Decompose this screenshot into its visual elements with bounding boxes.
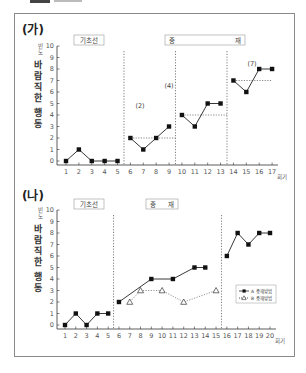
y-tick-label: 3 (50, 123, 54, 131)
data-point-square (149, 277, 153, 281)
data-point-square (117, 300, 121, 304)
x-tick-label: 18 (244, 332, 252, 340)
data-point-square (268, 231, 272, 235)
criterion-label: (4) (164, 82, 173, 90)
phase-label: 재 (235, 37, 241, 45)
svg-text:한: 한 (34, 92, 43, 103)
y-tick-label: 0 (50, 157, 54, 165)
x-tick-label: 13 (190, 332, 198, 340)
y-tick-label: 5 (50, 100, 54, 108)
phase-header-box (165, 35, 245, 45)
svg-text:바: 바 (34, 223, 43, 234)
x-tick-label: 13 (216, 168, 224, 176)
svg-text:행: 행 (34, 271, 42, 282)
svg-text:직: 직 (34, 82, 42, 92)
x-tick-label: 10 (158, 332, 166, 340)
data-point-square (171, 277, 175, 281)
legend-label: A 중재방법 (251, 288, 272, 295)
y-unit-label: 빈도 (38, 42, 43, 55)
y-unit-label: 빈도 (38, 206, 43, 219)
y-tick-label: 2 (50, 298, 54, 306)
x-axis-label: 회기 (277, 173, 287, 181)
y-axis-label: 바람직한행동 (34, 59, 43, 129)
data-point-square (246, 242, 250, 246)
data-point-square (128, 136, 132, 140)
x-tick-label: 14 (201, 332, 209, 340)
svg-text:바: 바 (34, 59, 43, 70)
legend-label: B 중재방법 (251, 295, 272, 302)
data-point-triangle (213, 288, 219, 293)
data-point-triangle (159, 288, 165, 293)
x-tick-label: 12 (180, 332, 188, 340)
x-tick-label: 2 (74, 332, 78, 340)
x-tick-label: 16 (223, 332, 231, 340)
data-point-square (90, 159, 94, 163)
y-tick-label: 4 (50, 111, 54, 119)
panel-label: (나) (22, 188, 44, 203)
x-tick-label: 8 (138, 332, 142, 340)
y-tick-label: 10 (46, 206, 54, 214)
chart-0: (가)012345678910빈도바람직한행동12345678910111213… (22, 22, 287, 181)
data-point-square (77, 147, 81, 151)
y-tick-label: 7 (50, 77, 54, 85)
legend: A 중재방법B 중재방법 (236, 285, 276, 303)
x-tick-label: 3 (85, 332, 89, 340)
x-tick-label: 9 (167, 168, 171, 176)
x-tick-label: 6 (128, 168, 132, 176)
y-tick-label: 5 (50, 264, 54, 272)
x-tick-label: 5 (106, 332, 110, 340)
data-point-square (270, 67, 274, 71)
x-tick-label: 19 (255, 332, 263, 340)
x-tick-label: 5 (115, 168, 119, 176)
x-tick-label: 15 (242, 168, 250, 176)
y-tick-label: 6 (50, 88, 54, 96)
y-tick-label: 6 (50, 252, 54, 260)
phase-label: 중 (169, 37, 175, 45)
data-point-square (203, 265, 207, 269)
svg-text:동: 동 (34, 119, 42, 129)
data-point-square (115, 159, 119, 163)
panel-label: (가) (22, 22, 44, 37)
x-tick-label: 11 (191, 168, 199, 176)
x-axis-label: 회기 (275, 337, 285, 345)
y-tick-label: 8 (50, 65, 54, 73)
x-tick-label: 9 (149, 332, 153, 340)
data-point-square (180, 113, 184, 117)
charts-canvas: (가)012345678910빈도바람직한행동12345678910111213… (0, 0, 306, 373)
data-point-square (257, 231, 261, 235)
x-tick-label: 7 (141, 168, 145, 176)
data-point-square (84, 323, 88, 327)
data-point-square (231, 78, 235, 82)
x-tick-label: 17 (233, 332, 241, 340)
data-point-square (193, 124, 197, 128)
data-point-square (106, 311, 110, 315)
svg-text:빈: 빈 (38, 42, 43, 49)
x-tick-label: 3 (90, 168, 94, 176)
x-tick-label: 14 (229, 168, 237, 176)
svg-text:람: 람 (34, 70, 43, 81)
y-tick-label: 4 (50, 275, 54, 283)
x-tick-label: 11 (169, 332, 177, 340)
x-tick-label: 7 (128, 332, 132, 340)
svg-text:행: 행 (34, 107, 42, 118)
data-point-square (167, 124, 171, 128)
y-tick-label: 3 (50, 287, 54, 295)
data-point-square (102, 159, 106, 163)
data-point-square (74, 311, 78, 315)
chart-1: (나)012345678910빈도바람직한행동12345678910111213… (22, 188, 285, 345)
legend-square-icon (243, 289, 246, 292)
x-tick-label: 17 (268, 168, 276, 176)
criterion-label: (2) (135, 102, 144, 110)
y-tick-label: 1 (50, 146, 54, 154)
x-tick-label: 10 (178, 168, 186, 176)
x-tick-label: 4 (103, 168, 107, 176)
svg-text:도: 도 (38, 49, 43, 55)
data-point-square (63, 323, 67, 327)
criterion-label: (7) (247, 60, 256, 68)
data-point-square (192, 265, 196, 269)
y-tick-label: 9 (50, 218, 54, 226)
y-tick-label: 1 (50, 310, 54, 318)
y-tick-label: 8 (50, 229, 54, 237)
y-axis-label: 바람직한행동 (34, 223, 43, 293)
svg-text:람: 람 (34, 234, 43, 245)
